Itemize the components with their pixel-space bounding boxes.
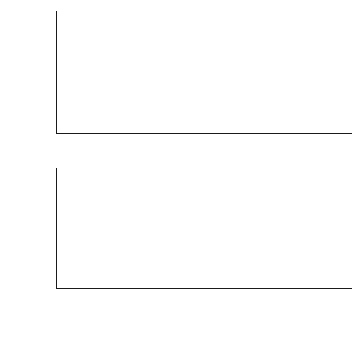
plot-area-fertility (56, 11, 352, 134)
y-axis-line-fertility (56, 11, 57, 134)
figure-two-panel-bar-charts (0, 0, 364, 353)
panel-fertility-rate (0, 0, 364, 152)
plot-area-literacy (56, 168, 352, 289)
x-axis-line-fertility (56, 133, 352, 134)
y-axis-line-literacy (56, 168, 57, 289)
x-axis-category-labels (56, 289, 356, 351)
